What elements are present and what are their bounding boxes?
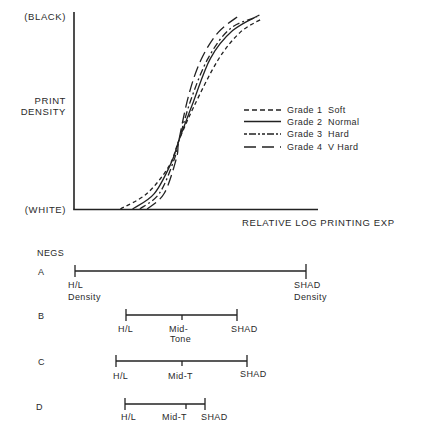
- hl-label: H/L: [121, 412, 136, 422]
- shad-label: SHAD: [201, 412, 228, 422]
- legend-desc: Normal: [328, 117, 359, 127]
- y-axis-bottom-label: (WHITE): [25, 204, 66, 215]
- hl-label: H/L: [118, 324, 133, 334]
- shad-label-line2: Density: [294, 292, 327, 302]
- hl-label-line2: Density: [68, 292, 101, 302]
- curve-grade-1-soft: [120, 19, 262, 209]
- x-axis-label: RELATIVE LOG PRINTING EXP: [242, 217, 395, 228]
- mid-label-line2: Tone: [170, 334, 191, 344]
- shad-label: SHAD: [231, 324, 258, 334]
- mid-label: Mid-T: [168, 371, 193, 381]
- neg-row-c: C H/L Mid-T SHAD: [38, 355, 267, 381]
- legend-item-grade-2: Grade 2 Normal: [244, 117, 359, 127]
- hl-label: H/L: [113, 371, 128, 381]
- characteristic-curve-chart: (BLACK) PRINT DENSITY (WHITE) RELATIVE L…: [21, 11, 395, 228]
- neg-row-d: D H/L Mid-T SHAD: [36, 398, 228, 422]
- neg-letter: B: [38, 311, 44, 321]
- legend-item-grade-3: Grade 3 Hard: [244, 129, 349, 139]
- curve-grade-4-v-hard: [147, 15, 240, 209]
- negs-diagram: NEGS A H/L Density SHAD Density B H/L Mi…: [36, 248, 327, 422]
- legend-item-grade-4: Grade 4 V Hard: [244, 142, 358, 152]
- legend-desc: Soft: [328, 105, 346, 115]
- y-axis-label-line1: PRINT: [35, 95, 67, 106]
- neg-letter: D: [36, 402, 43, 412]
- curve-grade-3-hard: [140, 17, 257, 209]
- y-axis-top-label: (BLACK): [24, 11, 66, 22]
- mid-label: Mid-T: [162, 412, 187, 422]
- hl-label: H/L: [68, 280, 83, 290]
- legend-desc: V Hard: [328, 142, 358, 152]
- legend-grade: Grade 2: [287, 117, 322, 127]
- legend-item-grade-1: Grade 1 Soft: [244, 105, 346, 115]
- neg-row-a: A H/L Density SHAD Density: [38, 264, 327, 302]
- neg-letter: A: [38, 267, 44, 277]
- y-axis-label-line2: DENSITY: [21, 106, 66, 117]
- legend-grade: Grade 4: [287, 142, 322, 152]
- legend-desc: Hard: [328, 129, 349, 139]
- legend-grade: Grade 3: [287, 129, 322, 139]
- shad-label: SHAD: [240, 369, 267, 379]
- legend-grade: Grade 1: [287, 105, 322, 115]
- figure: (BLACK) PRINT DENSITY (WHITE) RELATIVE L…: [0, 0, 437, 422]
- neg-letter: C: [38, 357, 45, 367]
- negs-title: NEGS: [37, 248, 64, 258]
- legend: Grade 1 Soft Grade 2 Normal Grade 3 Hard…: [244, 105, 359, 152]
- neg-row-b: B H/L Mid- Tone SHAD: [38, 309, 258, 344]
- curve-grade-2-normal: [133, 15, 260, 209]
- curves-group: [120, 15, 262, 209]
- mid-label: Mid-: [169, 324, 188, 334]
- shad-label: SHAD: [294, 280, 321, 290]
